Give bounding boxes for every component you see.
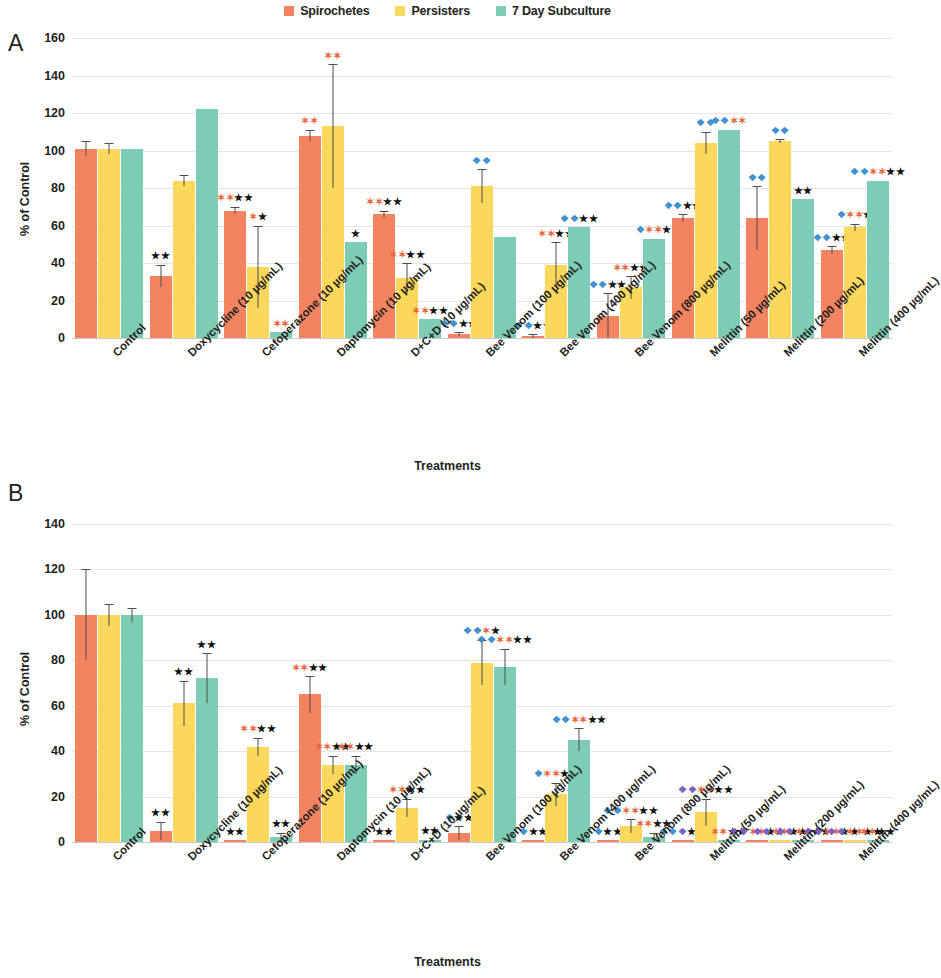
y-tick-label: 0 xyxy=(58,836,65,849)
panel-b: B % of Control 020406080100120140★★★★★★★… xyxy=(0,476,895,978)
x-tick-cell: Bee Venom (400 µg/mL) xyxy=(519,344,594,345)
panel-a-letter: A xyxy=(8,30,23,57)
bar[interactable] xyxy=(844,840,866,842)
significance-marker: ★★ xyxy=(226,827,245,837)
error-bar xyxy=(705,799,706,826)
x-tick-cell: Bee Venom (800 µg/mL) xyxy=(594,344,669,345)
error-bar-cap xyxy=(82,569,91,570)
error-bar-cap xyxy=(678,214,687,215)
bar-slot: ★★ xyxy=(792,38,814,338)
bar-slot: ★★ xyxy=(224,524,246,842)
bar[interactable] xyxy=(597,840,619,842)
bar-group: ★★ xyxy=(147,38,222,338)
bar[interactable] xyxy=(98,615,120,842)
bar[interactable] xyxy=(471,186,493,338)
y-tick-label: 100 xyxy=(44,144,65,157)
legend-label: Spirochetes xyxy=(300,4,369,18)
significance-marker: ✶★ xyxy=(249,212,267,222)
bar[interactable] xyxy=(672,840,694,842)
x-tick-cell: Control xyxy=(72,848,147,849)
bar[interactable] xyxy=(718,130,740,338)
bar-slot: ❖❖✶✶★★ xyxy=(792,524,814,842)
legend-label: 7 Day Subculture xyxy=(512,4,611,18)
significance-marker: ❖❖ xyxy=(748,173,767,183)
bar-group: ★★★★★★ xyxy=(147,524,222,842)
bar[interactable] xyxy=(75,149,97,338)
error-bar xyxy=(458,826,459,840)
error-bar xyxy=(235,207,236,215)
error-bar xyxy=(183,681,184,726)
bar-slot: ★★ xyxy=(196,524,218,842)
error-bar xyxy=(504,649,505,685)
y-tick-label: 40 xyxy=(51,745,65,758)
bar[interactable] xyxy=(121,149,143,338)
significance-marker: ❖❖✶✶ xyxy=(711,116,747,126)
panel-a: A % of Control 020406080100120140160★★✶✶… xyxy=(0,26,895,476)
bar[interactable] xyxy=(867,181,889,339)
bar[interactable] xyxy=(121,615,143,842)
legend-item-1: Persisters xyxy=(395,4,469,18)
significance-marker: ★★ xyxy=(197,640,216,650)
panel-b-letter: B xyxy=(8,480,23,507)
y-tick-label: 80 xyxy=(51,654,65,667)
bar-slot: ★★ xyxy=(150,524,172,842)
bar[interactable] xyxy=(769,840,791,842)
panel-a-x-tick-labels: ControlDoxycycline (10 µg/mL)Cefoperazon… xyxy=(72,344,892,345)
error-bar xyxy=(109,604,110,627)
bar[interactable] xyxy=(224,840,246,842)
error-bar xyxy=(160,822,161,840)
y-tick-label: 60 xyxy=(51,699,65,712)
bar[interactable] xyxy=(98,149,120,338)
error-bar-cap xyxy=(753,186,762,187)
bar[interactable] xyxy=(769,141,791,338)
significance-marker: ❖✶✶★ xyxy=(636,225,672,235)
error-bar-cap xyxy=(454,332,463,333)
significance-marker: ★ xyxy=(351,229,361,239)
bar-slot xyxy=(98,524,120,842)
significance-marker: ★★ xyxy=(151,251,170,261)
bar[interactable] xyxy=(821,840,843,842)
x-tick-cell: Melittin (50 µg/mL) xyxy=(668,344,743,345)
x-tick-cell: Daptomycin (10 µg/mL) xyxy=(296,344,371,345)
error-bar xyxy=(831,246,832,254)
bar[interactable] xyxy=(522,840,544,842)
bar[interactable] xyxy=(373,840,395,842)
bar-slot: ❖❖✶✶★★ xyxy=(821,524,843,842)
error-bar xyxy=(86,141,87,156)
error-bar xyxy=(258,226,259,309)
significance-marker: ★★ xyxy=(174,667,193,677)
error-bar-cap xyxy=(776,139,785,140)
error-bar-cap xyxy=(380,211,389,212)
error-bar-cap xyxy=(202,653,211,654)
legend-label: Persisters xyxy=(411,4,469,18)
bar-slot xyxy=(196,38,218,338)
bar-slot: ★★ xyxy=(270,524,292,842)
error-bar xyxy=(109,143,110,154)
error-bar-cap xyxy=(701,132,710,133)
bar[interactable] xyxy=(746,840,768,842)
error-bar xyxy=(682,214,683,222)
bar-slot: ★★ xyxy=(150,38,172,338)
bar[interactable] xyxy=(471,663,493,842)
error-bar-cap xyxy=(105,604,114,605)
panel-a-y-axis-label: % of Control xyxy=(18,162,32,236)
error-bar-cap xyxy=(254,226,263,227)
bar[interactable] xyxy=(196,109,218,338)
error-bar-cap xyxy=(105,143,114,144)
bar[interactable] xyxy=(173,181,195,339)
significance-marker: ✶✶★★ xyxy=(338,742,374,752)
error-bar-cap xyxy=(328,64,337,65)
x-tick-cell: Melittin (400 µg/mL) xyxy=(817,848,892,849)
x-tick-cell: D+C+D (10 µg/mL) xyxy=(370,344,445,345)
bar-group xyxy=(72,524,147,842)
bar[interactable] xyxy=(494,667,516,842)
legend-item-2: 7 Day Subculture xyxy=(496,4,611,18)
bar-slot: ★★ xyxy=(173,524,195,842)
error-bar xyxy=(630,819,631,833)
bar[interactable] xyxy=(792,199,814,338)
bar-group xyxy=(72,38,147,338)
bar[interactable] xyxy=(695,143,717,338)
significance-marker: ★★ xyxy=(151,808,170,818)
x-tick-cell: Melittin (200 µg/mL) xyxy=(743,344,818,345)
